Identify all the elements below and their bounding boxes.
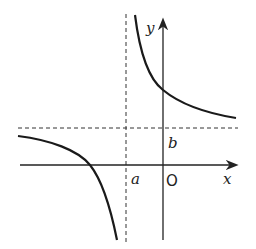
x-axis-label: x xyxy=(223,170,232,188)
hyperbola-lower-branch xyxy=(18,136,117,240)
b-label: b xyxy=(168,134,178,152)
origin-label: O xyxy=(166,172,178,190)
hyperbola-graph: y x O a b xyxy=(0,0,256,249)
a-label: a xyxy=(131,170,140,188)
y-axis-label: y xyxy=(145,19,155,37)
